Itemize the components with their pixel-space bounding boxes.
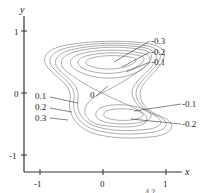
y-tick-label: -1 [9, 151, 17, 161]
label-zero: 0 [90, 90, 95, 100]
y-tick-label: 0 [14, 89, 19, 99]
x-axis-label: x [184, 166, 190, 177]
label-upper-m0.3: -0.3 [151, 36, 166, 46]
caption-fragment: 4 2 [145, 188, 155, 193]
label-upper-m0.2: -0.2 [151, 47, 165, 57]
y-tick-label: 1 [14, 27, 19, 37]
x-tick-label: 0 [100, 179, 105, 189]
label-upper-m0.1: -0.1 [151, 57, 165, 67]
label-lower-m0.2: -0.2 [182, 119, 196, 129]
label-left-0.1: 0.1 [35, 91, 46, 101]
label-left-0.3: 0.3 [35, 113, 47, 123]
y-axis-label: y [19, 4, 25, 15]
label-left-0.2: 0.2 [35, 102, 46, 112]
label-lower-m0.1: -0.1 [182, 99, 196, 109]
x-tick-label: -1 [34, 179, 42, 189]
contour-plot: -1 0 1 -1 0 1 x y -0.3 -0.2 -0.1 -0.1 -0… [0, 0, 211, 193]
x-tick-label: 1 [163, 179, 168, 189]
